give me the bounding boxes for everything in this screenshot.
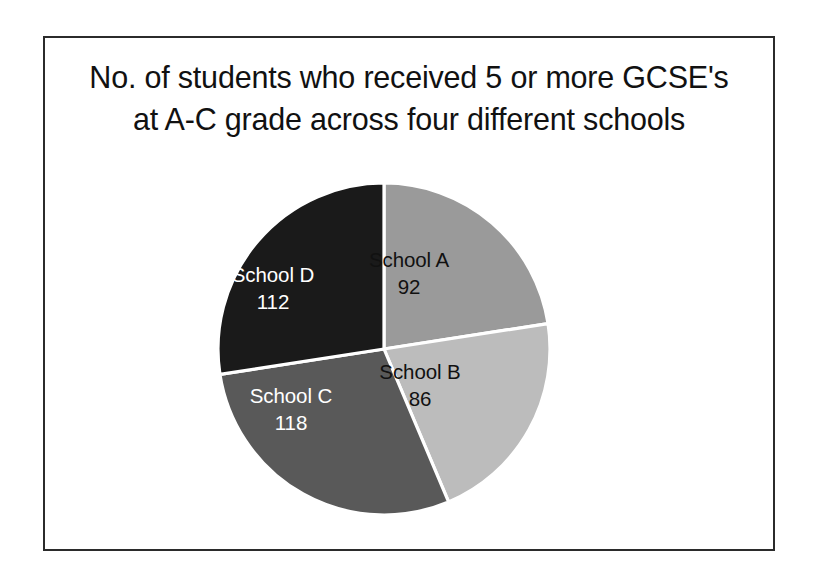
chart-page-frame: No. of students who received 5 or more G…	[43, 36, 775, 551]
pie-slice-school-d	[218, 183, 384, 374]
pie-slice-school-a	[384, 183, 548, 349]
pie-slice-group	[218, 183, 550, 515]
pie-chart-svg	[214, 179, 554, 519]
pie-chart: School A 92 School B 86 School C 118 Sch…	[45, 38, 777, 553]
